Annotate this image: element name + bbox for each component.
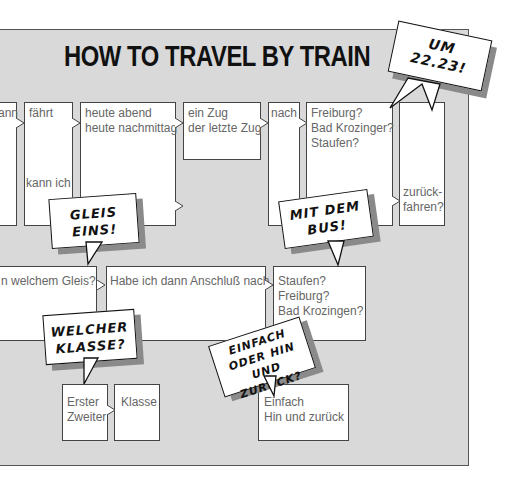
arrow-connector xyxy=(260,118,269,128)
box-klasse: Klasse xyxy=(114,384,160,441)
arrow-connector xyxy=(97,280,106,290)
arrow-connector xyxy=(175,201,184,211)
box-zug: ein Zug der letzte Zug xyxy=(183,102,261,160)
speech-bubble-platform: GLEIS EINS! xyxy=(48,193,139,249)
speech-bubble-tail xyxy=(326,241,348,267)
arrow-connector xyxy=(299,118,308,128)
speech-bubble-tail xyxy=(264,376,284,398)
box-class-number: Erster Zweiter xyxy=(62,384,108,441)
speech-bubble-tail xyxy=(80,358,102,386)
arrow-connector xyxy=(107,405,116,415)
speech-bubble-class: WELCHER KLASSE? xyxy=(42,309,137,365)
arrow-connector xyxy=(16,118,25,128)
arrow-connector xyxy=(175,118,184,128)
arrow-connector xyxy=(392,196,401,206)
box-zurueckfahren: zurück- fahren? xyxy=(399,102,445,226)
arrow-connector xyxy=(72,118,81,128)
speech-bubble-tail xyxy=(84,242,106,266)
box-wann: ann xyxy=(0,102,17,226)
arrow-connector xyxy=(265,280,274,290)
page-title: HOW TO TRAVEL BY TRAIN xyxy=(64,40,370,73)
speech-bubble-tail xyxy=(390,78,460,112)
